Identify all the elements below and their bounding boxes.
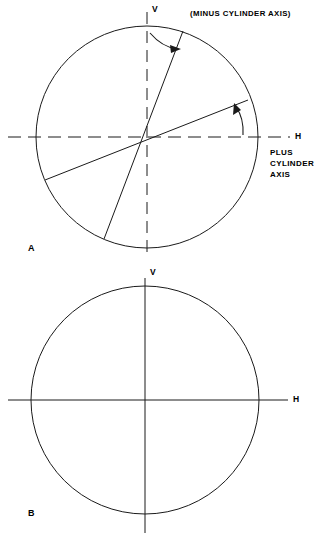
panel-a-letter: A [28, 243, 35, 253]
panel-a-minus-cylinder-axis-chord [104, 31, 183, 239]
minus-cylinder-axis-label: (MINUS CYLINDER AXIS) [190, 9, 291, 19]
plus-cylinder-axis-line-1: PLUS [270, 147, 314, 158]
panel-b-letter: B [28, 508, 35, 518]
figure-container: V H (MINUS CYLINDER AXIS) PLUS CYLINDER … [0, 0, 325, 538]
panel-b-vertical-axis-label: V [150, 267, 156, 277]
panel-b-group [8, 278, 288, 533]
plus-cylinder-axis-label: PLUS CYLINDER AXIS [270, 147, 314, 180]
panel-a-vertical-axis-label: V [152, 4, 158, 14]
panel-b-horizontal-axis-label: H [293, 394, 300, 404]
panel-a-horizontal-axis-label: H [295, 131, 302, 141]
plus-cylinder-axis-line-3: AXIS [270, 169, 314, 180]
diagram-svg [0, 0, 325, 538]
panel-a-group [8, 12, 290, 258]
plus-cylinder-axis-line-2: CYLINDER [270, 158, 314, 169]
